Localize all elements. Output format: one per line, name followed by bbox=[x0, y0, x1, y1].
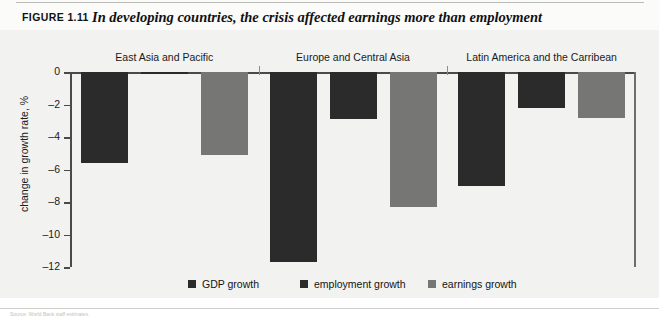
y-axis-tick bbox=[64, 235, 70, 237]
y-axis-tick bbox=[64, 267, 70, 269]
legend-item: GDP growth bbox=[188, 278, 259, 290]
legend-swatch-icon bbox=[428, 280, 436, 288]
bar bbox=[458, 72, 505, 186]
y-axis-tick-label: –12 bbox=[20, 260, 60, 272]
legend-item: employment growth bbox=[300, 278, 406, 290]
plot-right-edge bbox=[634, 72, 636, 267]
bar bbox=[201, 72, 248, 155]
y-axis-tick bbox=[64, 105, 70, 107]
legend-label: earnings growth bbox=[442, 278, 517, 290]
y-axis-line bbox=[70, 72, 72, 267]
y-axis-tick bbox=[64, 72, 70, 74]
bar bbox=[578, 72, 625, 118]
y-axis-title: change in growth rate, % bbox=[18, 64, 30, 244]
bar bbox=[270, 72, 317, 262]
legend-label: employment growth bbox=[314, 278, 406, 290]
bar bbox=[518, 72, 565, 108]
bar bbox=[330, 72, 377, 119]
source-note: Source: World Bank staff estimates. bbox=[10, 311, 89, 317]
group-divider bbox=[447, 66, 448, 75]
group-label: East Asia and Pacific bbox=[115, 51, 213, 63]
figure-container: FIGURE 1.11 In developing countries, the… bbox=[0, 0, 659, 322]
legend-label: GDP growth bbox=[202, 278, 259, 290]
figure-number: FIGURE 1.11 bbox=[22, 11, 89, 23]
group-label: Latin America and the Carribean bbox=[466, 51, 617, 63]
figure-title-band: FIGURE 1.11 In developing countries, the… bbox=[0, 0, 659, 30]
title-rule bbox=[16, 2, 644, 3]
y-axis-tick bbox=[64, 170, 70, 172]
group-label: Europe and Central Asia bbox=[296, 51, 410, 63]
bar bbox=[81, 72, 128, 163]
y-axis-tick bbox=[64, 202, 70, 204]
figure-title: In developing countries, the crisis affe… bbox=[92, 9, 542, 26]
bar bbox=[390, 72, 437, 207]
plot-panel: 0–2–4–6–8–10–12 change in growth rate, %… bbox=[0, 30, 659, 298]
figure-footer: Source: World Bank staff estimates. bbox=[0, 298, 659, 322]
legend-swatch-icon bbox=[188, 280, 196, 288]
bar bbox=[141, 72, 188, 74]
footer-rule bbox=[0, 308, 659, 309]
chart-legend: GDP growthemployment growthearnings grow… bbox=[0, 278, 659, 296]
legend-swatch-icon bbox=[300, 280, 308, 288]
group-divider bbox=[259, 66, 260, 75]
legend-item: earnings growth bbox=[428, 278, 517, 290]
y-axis-tick bbox=[64, 137, 70, 139]
